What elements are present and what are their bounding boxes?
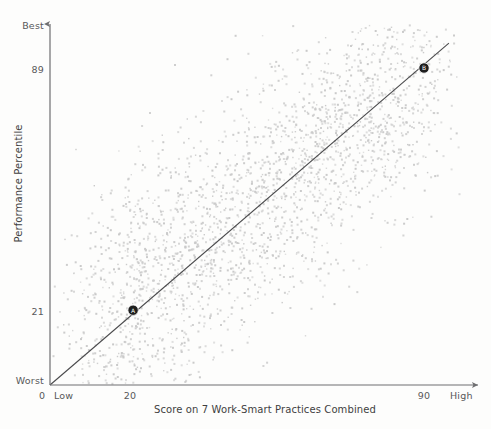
scatter-point (285, 254, 286, 255)
scatter-point (326, 158, 328, 160)
scatter-point (152, 265, 154, 267)
scatter-point (195, 190, 197, 192)
scatter-point (67, 298, 69, 300)
scatter-point (393, 31, 394, 32)
scatter-point (270, 146, 272, 148)
scatter-point (213, 357, 215, 359)
scatter-point (213, 216, 215, 218)
scatter-point (227, 269, 229, 271)
scatter-point (307, 181, 308, 182)
scatter-point (420, 85, 422, 87)
scatter-point (164, 249, 166, 251)
scatter-point (146, 256, 148, 258)
scatter-point (266, 187, 267, 188)
scatter-point (428, 121, 430, 123)
scatter-point (391, 124, 393, 126)
scatter-point (262, 222, 264, 224)
scatter-point (189, 259, 191, 261)
scatter-point (409, 155, 411, 157)
scatter-point (174, 378, 176, 380)
scatter-point (138, 270, 139, 271)
scatter-point (115, 242, 117, 244)
scatter-point (451, 105, 453, 107)
scatter-point (231, 243, 233, 245)
scatter-point (137, 223, 139, 225)
scatter-point (188, 246, 190, 248)
scatter-point (157, 262, 159, 264)
scatter-point (220, 324, 222, 326)
scatter-point (130, 266, 132, 268)
scatter-point (286, 115, 288, 117)
scatter-point (181, 364, 183, 366)
scatter-point (319, 197, 321, 199)
scatter-point (100, 196, 102, 198)
scatter-point (251, 183, 253, 185)
scatter-point (370, 120, 372, 122)
scatter-point (396, 39, 397, 40)
scatter-point (237, 297, 239, 299)
scatter-point (301, 174, 303, 176)
scatter-point (131, 325, 133, 327)
scatter-point (219, 246, 220, 247)
scatter-point (362, 155, 363, 156)
scatter-point (254, 284, 256, 286)
scatter-point (204, 234, 205, 235)
scatter-point (166, 241, 167, 242)
scatter-point (259, 93, 260, 94)
scatter-point (396, 32, 398, 34)
scatter-point (165, 318, 167, 320)
scatter-point (413, 127, 415, 129)
scatter-point (289, 120, 291, 122)
scatter-point (115, 271, 116, 272)
scatter-point (192, 283, 194, 285)
scatter-point (335, 174, 336, 175)
scatter-point (145, 224, 147, 226)
scatter-point (274, 195, 276, 197)
scatter-point (306, 64, 308, 66)
scatter-point (238, 193, 239, 194)
scatter-point (395, 68, 396, 69)
scatter-point (186, 210, 187, 211)
scatter-point (172, 341, 174, 343)
scatter-point (400, 95, 402, 97)
plot-canvas: AB (0, 0, 491, 429)
scatter-point (292, 131, 293, 132)
scatter-point (163, 351, 165, 353)
scatter-point (257, 298, 258, 299)
scatter-point (284, 292, 286, 294)
scatter-point (123, 296, 125, 298)
scatter-point (380, 131, 382, 133)
scatter-point (291, 168, 293, 170)
scatter-point (271, 293, 272, 294)
scatter-point (315, 136, 317, 138)
scatter-point (351, 66, 353, 68)
scatter-point (287, 293, 288, 294)
scatter-point (325, 189, 327, 191)
scatter-point (186, 273, 188, 275)
scatter-point (357, 147, 359, 149)
scatter-point (340, 243, 341, 244)
scatter-point (101, 305, 103, 307)
scatter-point (408, 85, 410, 87)
scatter-point (88, 362, 90, 364)
scatter-point (170, 223, 172, 225)
scatter-point (281, 125, 283, 127)
scatter-point (110, 229, 112, 231)
scatter-point (373, 151, 375, 153)
scatter-point (431, 71, 433, 73)
scatter-point (338, 126, 340, 128)
scatter-point (317, 217, 319, 219)
scatter-point (164, 362, 165, 363)
scatter-point (108, 247, 110, 249)
scatter-point (139, 333, 141, 335)
scatter-point (315, 181, 316, 182)
scatter-point (394, 165, 395, 166)
scatter-point (162, 338, 164, 340)
scatter-point (381, 105, 383, 107)
scatter-point (355, 191, 356, 192)
scatter-point (179, 194, 181, 196)
scatter-point (292, 116, 294, 118)
scatter-point (206, 213, 208, 215)
scatter-point (163, 239, 165, 241)
scatter-point (303, 99, 305, 101)
